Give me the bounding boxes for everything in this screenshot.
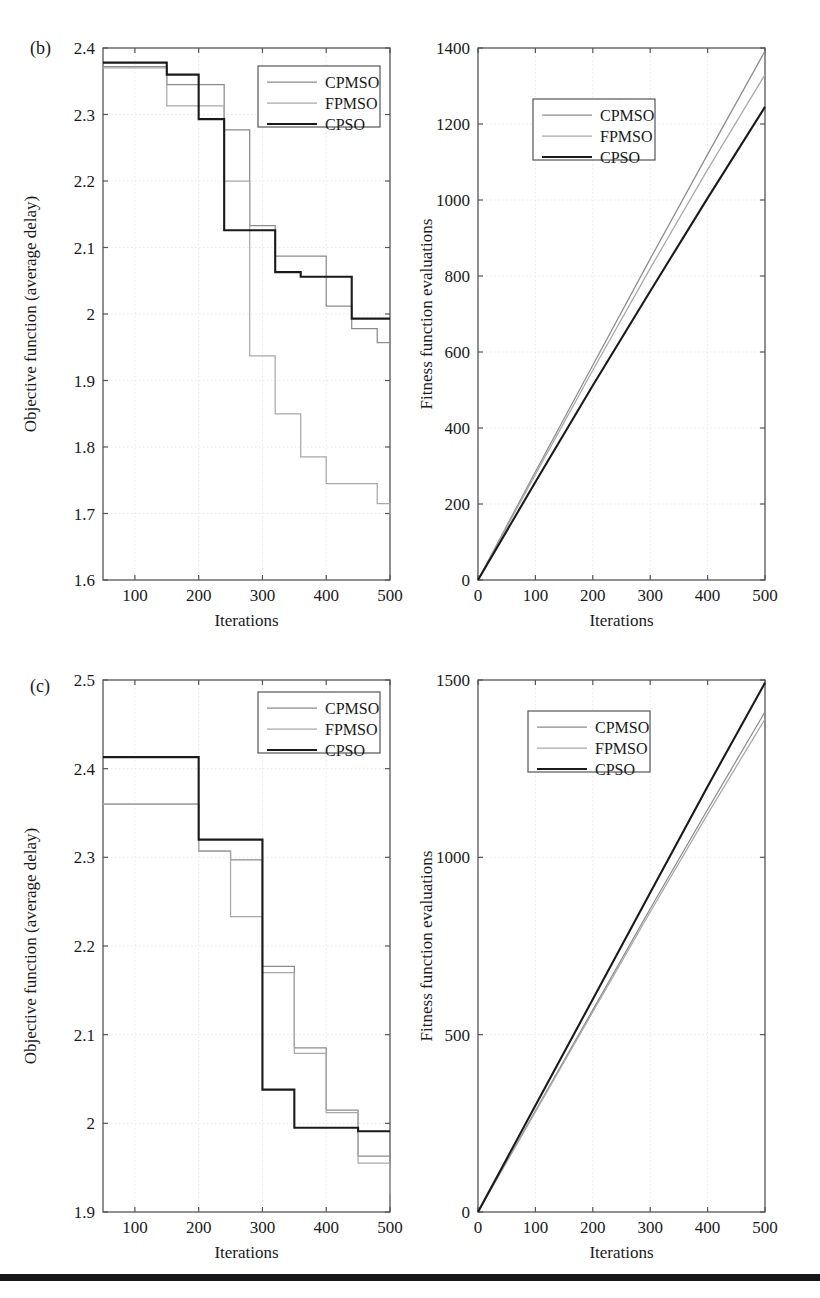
- figure-root: 1002003004005001.61.71.81.922.12.22.32.4…: [0, 0, 820, 1298]
- page-divider-rule: [0, 1274, 820, 1281]
- y-tick-label: 2: [87, 1114, 96, 1133]
- series-line-fpmso: [478, 719, 765, 1212]
- legend-label-cpso: CPSO: [325, 116, 365, 133]
- x-tick-label: 500: [752, 586, 778, 605]
- y-axis-title: Objective function (average delay): [21, 828, 40, 1064]
- y-tick-label: 2.2: [74, 937, 95, 956]
- x-tick-label: 100: [122, 586, 148, 605]
- y-tick-label: 1000: [436, 848, 470, 867]
- plot-frame: [103, 680, 390, 1212]
- x-axis-title: Iterations: [589, 1243, 653, 1260]
- x-tick-label: 100: [523, 586, 549, 605]
- y-tick-label: 1500: [436, 671, 470, 690]
- y-axis-title: Objective function (average delay): [21, 196, 40, 432]
- series-line-fpmso: [103, 68, 390, 514]
- legend-label-cpmso: CPMSO: [325, 700, 379, 717]
- legend: CPMSOFPMSOCPSO: [258, 692, 380, 759]
- legend: CPMSOFPMSOCPSO: [533, 99, 655, 166]
- legend-label-cpso: CPSO: [325, 742, 365, 759]
- y-tick-label: 200: [445, 495, 471, 514]
- x-tick-label: 400: [313, 1218, 339, 1237]
- series-line-cpmso: [103, 804, 390, 1181]
- x-tick-label: 200: [580, 586, 606, 605]
- x-axis-title: Iterations: [214, 1243, 278, 1260]
- y-tick-label: 500: [445, 1026, 471, 1045]
- y-tick-label: 1.9: [74, 1203, 95, 1222]
- panel-b-tag: (b): [30, 38, 51, 59]
- legend: CPMSOFPMSOCPSO: [528, 711, 650, 778]
- x-tick-label: 0: [474, 586, 483, 605]
- x-tick-label: 300: [250, 586, 276, 605]
- y-tick-label: 2.4: [74, 760, 96, 779]
- x-tick-label: 100: [122, 1218, 148, 1237]
- y-tick-label: 400: [445, 419, 471, 438]
- panel-c: 1002003004005001.922.12.22.32.42.5Iterat…: [0, 640, 820, 1260]
- x-tick-label: 500: [752, 1218, 778, 1237]
- x-tick-label: 300: [250, 1218, 276, 1237]
- series-line-cpso: [478, 107, 765, 580]
- legend-label-fpmso: FPMSO: [595, 740, 647, 757]
- legend-label-fpmso: FPMSO: [600, 128, 652, 145]
- chart-b-right: 0100200300400500020040060080010001200140…: [410, 0, 820, 640]
- x-tick-label: 0: [474, 1218, 483, 1237]
- y-tick-label: 2: [87, 305, 96, 324]
- panel-c-tag: (c): [30, 676, 50, 697]
- x-tick-label: 300: [637, 1218, 663, 1237]
- panel-b: 1002003004005001.61.71.81.922.12.22.32.4…: [0, 0, 820, 640]
- chart-c-left: 1002003004005001.922.12.22.32.42.5Iterat…: [0, 640, 410, 1260]
- x-tick-label: 400: [695, 586, 721, 605]
- y-tick-label: 1.7: [74, 505, 96, 524]
- y-axis-title: Fitness function evaluations: [417, 851, 436, 1042]
- x-tick-label: 200: [580, 1218, 606, 1237]
- y-tick-label: 2.2: [74, 172, 95, 191]
- y-tick-label: 0: [462, 571, 471, 590]
- y-tick-label: 2.5: [74, 671, 95, 690]
- legend-label-cpmso: CPMSO: [595, 719, 649, 736]
- x-tick-label: 400: [695, 1218, 721, 1237]
- y-tick-label: 800: [445, 267, 471, 286]
- legend: CPMSOFPMSOCPSO: [258, 66, 380, 133]
- y-tick-label: 1.8: [74, 438, 95, 457]
- y-tick-label: 2.3: [74, 848, 95, 867]
- y-tick-label: 2.1: [74, 239, 95, 258]
- y-tick-label: 2.4: [74, 39, 96, 58]
- legend-label-cpmso: CPMSO: [325, 74, 379, 91]
- series-line-fpmso: [103, 804, 390, 1194]
- x-tick-label: 500: [377, 1218, 403, 1237]
- y-tick-label: 2.3: [74, 106, 95, 125]
- x-tick-label: 100: [523, 1218, 549, 1237]
- legend-label-fpmso: FPMSO: [325, 721, 377, 738]
- y-tick-label: 1200: [436, 115, 470, 134]
- x-axis-title: Iterations: [589, 611, 653, 630]
- y-tick-label: 600: [445, 343, 471, 362]
- x-tick-label: 200: [186, 1218, 212, 1237]
- legend-label-fpmso: FPMSO: [325, 95, 377, 112]
- legend-label-cpso: CPSO: [600, 149, 640, 166]
- x-tick-label: 300: [637, 586, 663, 605]
- y-tick-label: 1400: [436, 39, 470, 58]
- y-tick-label: 2.1: [74, 1026, 95, 1045]
- chart-c-right: 0100200300400500050010001500IterationsFi…: [410, 640, 820, 1260]
- x-tick-label: 500: [377, 586, 403, 605]
- series-line-cpso: [103, 757, 390, 1131]
- x-tick-label: 400: [313, 586, 339, 605]
- y-tick-label: 1000: [436, 191, 470, 210]
- legend-label-cpso: CPSO: [595, 761, 635, 778]
- x-axis-title: Iterations: [214, 611, 278, 630]
- y-tick-label: 1.9: [74, 372, 95, 391]
- y-axis-title: Fitness function evaluations: [417, 219, 436, 410]
- chart-b-left: 1002003004005001.61.71.81.922.12.22.32.4…: [0, 0, 410, 640]
- x-tick-label: 200: [186, 586, 212, 605]
- y-tick-label: 1.6: [74, 571, 95, 590]
- legend-label-cpmso: CPMSO: [600, 107, 654, 124]
- y-tick-label: 0: [462, 1203, 471, 1222]
